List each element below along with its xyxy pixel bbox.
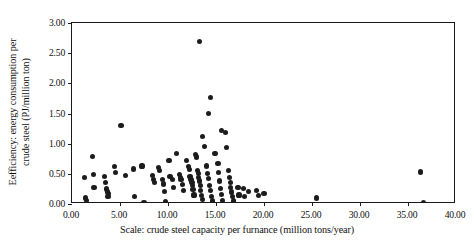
scatter-point [91,185,96,190]
scatter-point [162,189,167,194]
scatter-point [197,39,202,44]
x-tick-label: 25.00 [291,209,331,220]
scatter-point [256,193,261,198]
x-tick-mark [360,202,361,206]
scatter-point [215,161,220,166]
scatter-point [206,111,211,116]
scatter-point [242,194,247,199]
scatter-point [224,145,229,150]
scatter-point [200,134,205,139]
x-tick-mark [264,202,265,206]
x-tick-label: 5.00 [99,209,139,220]
scatter-point [180,182,185,187]
scatter-point [207,183,212,188]
scatter-point [166,158,171,163]
scatter-point [208,95,213,100]
y-tick-label: 0.50 [29,167,65,178]
scatter-point [123,173,128,178]
scatter-point [194,154,199,159]
y-tick-label: 2.50 [29,47,65,58]
scatter-point [202,144,207,149]
scatter-point [113,170,118,175]
x-tick-mark [168,202,169,206]
scatter-point [163,199,168,202]
scatter-point [220,198,225,202]
y-axis-title-line-1: Eefficiency: energy consumption per [6,5,19,219]
scatter-point [184,158,189,163]
x-tick-mark [312,202,313,206]
scatter-point [261,191,266,196]
scatter-point [212,151,217,156]
scatter-point [118,123,123,128]
scatter-point [112,164,117,169]
x-tick-label: 30.00 [339,209,379,220]
y-tick-label: 0.00 [29,198,65,209]
scatter-point [170,177,175,182]
scatter-points-layer [72,23,454,202]
scatter-point [187,167,192,172]
x-tick-label: 40.00 [435,209,474,220]
scatter-point [82,175,87,180]
scatter-point [235,185,240,190]
y-tick-mark [68,204,72,205]
x-tick-mark [216,202,217,206]
scatter-point [223,130,228,135]
scatter-point [204,163,209,168]
scatter-point [84,198,89,202]
scatter-point [171,185,176,190]
scatter-point [191,192,196,197]
scatter-point [141,200,146,202]
scatter-point [103,180,108,185]
chart-page: Eefficiency: energy consumption per crud… [0,0,474,244]
scatter-point [226,168,231,173]
scatter-point [200,197,205,202]
scatter-point [217,178,222,183]
scatter-point [231,198,236,202]
scatter-point [132,194,137,199]
scatter-point [219,192,224,197]
x-tick-label: 0.00 [51,209,91,220]
plot-area [71,22,455,203]
scatter-point [152,180,157,185]
scatter-point [190,187,195,192]
x-tick-mark [408,202,409,206]
scatter-point [210,198,215,202]
x-tick-label: 15.00 [195,209,235,220]
y-axis-title: Eefficiency: energy consumption per crud… [6,5,32,219]
scatter-point [216,170,221,175]
scatter-point [314,195,319,200]
x-tick-label: 35.00 [387,209,427,220]
y-tick-label: 1.00 [29,137,65,148]
scatter-point [246,189,251,194]
scatter-point [139,163,144,168]
y-tick-label: 3.00 [29,17,65,28]
scatter-point [157,168,162,173]
x-tick-mark [120,202,121,206]
y-tick-label: 1.50 [29,107,65,118]
scatter-point [254,188,259,193]
scatter-point [131,166,136,171]
y-axis-title-line-2: crude steel (PJ/million ton) [19,5,32,219]
scatter-point [105,194,110,199]
scatter-point [421,200,426,202]
scatter-point [418,169,423,174]
scatter-point [174,151,179,156]
scatter-point [161,181,166,186]
scatter-point [218,186,223,191]
scatter-point [91,172,96,177]
scatter-point [206,176,211,181]
scatter-point [208,188,213,193]
scatter-point [181,188,186,193]
scatter-point [102,174,107,179]
scatter-point [90,154,95,159]
x-axis-title: Scale: crude steel capacity per furnance… [0,224,474,235]
scatter-point [236,192,241,197]
x-tick-label: 10.00 [147,209,187,220]
y-tick-label: 2.00 [29,77,65,88]
x-tick-label: 20.00 [243,209,283,220]
